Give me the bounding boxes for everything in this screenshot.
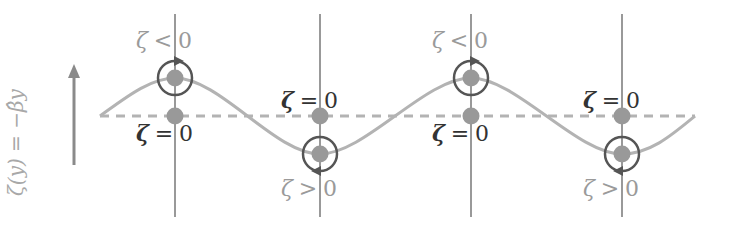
vorticity-label-zero: ζ=0 bbox=[136, 122, 193, 145]
vorticity-label-negative: ζ<0 bbox=[136, 30, 192, 52]
vorticity-gradient-label: ζ(y) = −β̂y bbox=[4, 89, 28, 196]
gradient-arrow-icon bbox=[68, 64, 80, 165]
vorticity-label-positive: ζ>0 bbox=[583, 178, 639, 200]
vorticity-label-negative: ζ<0 bbox=[432, 30, 488, 52]
vorticity-label-positive: ζ>0 bbox=[281, 178, 337, 200]
vorticity-label-zero: ζ=0 bbox=[583, 89, 640, 112]
vorticity-label-zero: ζ=0 bbox=[281, 89, 338, 112]
vorticity-label-zero: ζ=0 bbox=[432, 122, 489, 145]
